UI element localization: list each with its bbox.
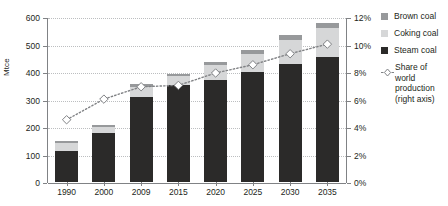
x-axis-tick-label: 1990 xyxy=(57,187,76,197)
bar-group[interactable] xyxy=(92,17,115,182)
y2-axis-tick xyxy=(347,128,351,129)
chart-container: Mtce 0100200300400500600 0%2%4%6%8%10%12… xyxy=(0,0,448,206)
bar-segment-brown-coal xyxy=(241,50,264,54)
legend-item-steam-coal[interactable]: Steam coal xyxy=(381,45,448,56)
bar-segment-steam-coal xyxy=(204,80,227,182)
x-axis-tick xyxy=(216,182,217,186)
bar-segment-brown-coal xyxy=(92,125,115,127)
x-axis-tick-label: 2015 xyxy=(169,187,188,197)
bar-group[interactable] xyxy=(279,17,302,182)
bar-segment-steam-coal xyxy=(241,72,264,182)
legend-label-share-of-world-production: Share of world production (right axis) xyxy=(395,62,448,104)
bar-segment-brown-coal xyxy=(204,62,227,65)
legend-label-line-2: production xyxy=(395,83,435,93)
y-axis-tick xyxy=(43,183,47,184)
y2-axis-tick-label: 10% xyxy=(354,41,371,51)
y-axis-tick xyxy=(43,18,47,19)
bar-segment-brown-coal xyxy=(55,141,78,143)
bar-group[interactable] xyxy=(55,17,78,182)
y-axis-tick-label: 100 xyxy=(26,151,40,161)
bar-segment-coking-coal xyxy=(316,28,339,57)
legend-label-line-1: Share of world xyxy=(395,62,427,83)
bar-group[interactable] xyxy=(167,17,190,182)
y-axis-tick-label: 0 xyxy=(35,178,40,188)
bar-segment-coking-coal xyxy=(55,143,78,152)
bar-segment-brown-coal xyxy=(130,84,153,87)
legend-swatch-coking-coal xyxy=(381,30,388,37)
legend-item-brown-coal[interactable]: Brown coal xyxy=(381,11,448,22)
x-axis-tick xyxy=(253,182,254,186)
bar-segment-steam-coal xyxy=(55,151,78,182)
x-axis-tick-label: 2000 xyxy=(94,187,113,197)
legend-item-coking-coal[interactable]: Coking coal xyxy=(381,28,448,39)
x-axis-tick-label: 2025 xyxy=(243,187,262,197)
plot-area: 0100200300400500600 0%2%4%6%8%10%12% 199… xyxy=(47,18,347,182)
x-axis-tick-label: 2035 xyxy=(318,187,337,197)
bar-segment-coking-coal xyxy=(241,54,264,72)
y-axis-title: Mtce xyxy=(2,16,14,76)
legend-swatch-steam-coal xyxy=(381,47,388,54)
bar-segment-steam-coal xyxy=(92,133,115,183)
y2-axis-tick xyxy=(347,156,351,157)
x-axis-tick xyxy=(104,182,105,186)
x-axis-tick xyxy=(178,182,179,186)
y-axis-tick-label: 400 xyxy=(26,68,40,78)
bar-segment-steam-coal xyxy=(167,85,190,182)
bar-segment-coking-coal xyxy=(92,127,115,133)
legend-label-line-3: (right axis) xyxy=(395,94,435,104)
x-axis-tick-label: 2030 xyxy=(281,187,300,197)
y-axis-tick-label: 300 xyxy=(26,96,40,106)
y-axis-tick xyxy=(43,73,47,74)
y-axis-tick xyxy=(43,156,47,157)
legend-swatch-brown-coal xyxy=(381,13,388,20)
y-axis-tick xyxy=(43,101,47,102)
y-axis-tick-label: 200 xyxy=(26,123,40,133)
bar-group[interactable] xyxy=(241,17,264,182)
bar-segment-coking-coal xyxy=(167,76,190,85)
bar-group[interactable] xyxy=(204,17,227,182)
y2-axis-tick xyxy=(347,73,351,74)
legend-item-share-of-world-production[interactable]: Share of world production (right axis) xyxy=(381,62,448,104)
y-axis-tick-label: 500 xyxy=(26,41,40,51)
bar-segment-steam-coal xyxy=(316,57,339,182)
bar-series-group xyxy=(48,18,346,182)
x-axis-tick xyxy=(327,182,328,186)
legend-label-coking-coal: Coking coal xyxy=(394,28,438,39)
y2-axis-tick xyxy=(347,183,351,184)
x-axis-tick-label: 2009 xyxy=(132,187,151,197)
y-axis-tick-label: 600 xyxy=(26,13,40,23)
legend-label-brown-coal: Brown coal xyxy=(394,11,436,22)
gridline xyxy=(48,183,346,184)
bar-segment-coking-coal xyxy=(130,87,153,97)
bar-segment-coking-coal xyxy=(279,40,302,63)
bar-segment-steam-coal xyxy=(279,64,302,182)
y2-axis-tick-label: 12% xyxy=(354,13,371,23)
y-axis-tick xyxy=(43,128,47,129)
y2-axis-tick-label: 0% xyxy=(354,178,366,188)
x-axis-tick xyxy=(67,182,68,186)
y2-axis-tick-label: 6% xyxy=(354,96,366,106)
y2-axis-tick xyxy=(347,101,351,102)
bar-group[interactable] xyxy=(130,17,153,182)
bar-segment-brown-coal xyxy=(316,23,339,29)
y2-axis-tick xyxy=(347,18,351,19)
y2-axis-tick-label: 8% xyxy=(354,68,366,78)
x-axis-tick-label: 2020 xyxy=(206,187,225,197)
bar-segment-brown-coal xyxy=(167,74,190,76)
bar-segment-brown-coal xyxy=(279,35,302,40)
bar-segment-coking-coal xyxy=(204,65,227,80)
legend-label-steam-coal: Steam coal xyxy=(394,45,437,56)
y2-axis-tick-label: 2% xyxy=(354,151,366,161)
y2-axis-tick xyxy=(347,46,351,47)
x-axis-tick xyxy=(290,182,291,186)
bar-group[interactable] xyxy=(316,17,339,182)
y2-axis-tick-label: 4% xyxy=(354,123,366,133)
y-axis-tick xyxy=(43,46,47,47)
x-axis-tick xyxy=(141,182,142,186)
bar-segment-steam-coal xyxy=(130,97,153,182)
legend: Brown coal Coking coal Steam coal Share … xyxy=(381,11,448,111)
diamond-marker-icon xyxy=(381,63,394,72)
